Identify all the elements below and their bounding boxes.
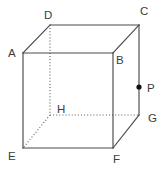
vertex-label-B: B [116,54,124,66]
edge-H-E [23,115,50,148]
vertex-label-C: C [140,5,148,17]
point-p-marker [136,84,141,89]
edge-B-C [113,25,139,53]
vertex-label-G: G [148,112,157,124]
point-label-P: P [147,82,155,94]
edge-A-D [23,25,50,53]
solid-edges-group [23,25,139,148]
vertex-label-E: E [8,150,16,162]
vertex-label-D: D [44,9,52,21]
edge-F-G [113,115,139,148]
vertex-label-F: F [113,153,120,165]
vertex-label-H: H [57,103,65,115]
cube-diagram: A B C D E F G H P [0,0,168,172]
vertex-label-A: A [8,47,16,59]
